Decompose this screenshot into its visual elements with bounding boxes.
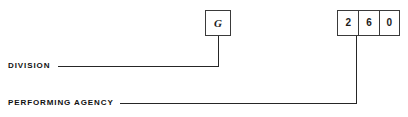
performing-agency-cell-2: 6 (358, 11, 378, 35)
diagram-canvas: G 2 6 0 DIVISION PERFORMING AGENCY (0, 0, 408, 117)
division-leader-line-horizontal (58, 66, 219, 67)
division-cell-1: G (206, 11, 230, 35)
performing-agency-cell-3: 0 (379, 11, 399, 35)
division-field-box[interactable]: G (205, 10, 231, 36)
division-label: DIVISION (8, 62, 50, 70)
performing-agency-cell-1: 2 (338, 11, 358, 35)
performing-agency-field-box[interactable]: 2 6 0 (337, 10, 400, 36)
performing-agency-label: PERFORMING AGENCY (8, 99, 114, 107)
performing-agency-leader-line-vertical (356, 36, 357, 104)
performing-agency-leader-line-horizontal (120, 103, 357, 104)
division-leader-line-vertical (218, 36, 219, 67)
